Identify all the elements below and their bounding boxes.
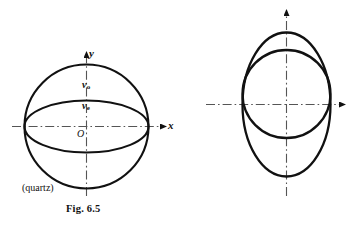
quartz-ve-base: v (82, 100, 87, 111)
quartz-y-axis-label: y (89, 48, 94, 59)
figure-panel-calcite: y x O ve vo (calcite) Fig. 6.6 (182, 0, 363, 225)
quartz-velocity-label-ve: ve (82, 101, 90, 112)
quartz-ve-subscript: e (87, 104, 90, 112)
quartz-vo-base: v (82, 79, 87, 90)
quartz-origin-label: O (77, 129, 84, 139)
quartz-x-axis-label: x (168, 120, 174, 131)
quartz-velocity-label-vo: vo (82, 80, 90, 91)
figure-board: y x O vo ve (quartz) Fig. 6.5 y x (0, 0, 363, 225)
quartz-figure-caption: Fig. 6.5 (66, 204, 101, 215)
figure-panel-quartz: y x O vo ve (quartz) Fig. 6.5 (0, 0, 182, 225)
quartz-material-label: (quartz) (22, 183, 54, 193)
quartz-vo-subscript: o (87, 83, 91, 91)
calcite-figure-graphic (182, 0, 363, 225)
